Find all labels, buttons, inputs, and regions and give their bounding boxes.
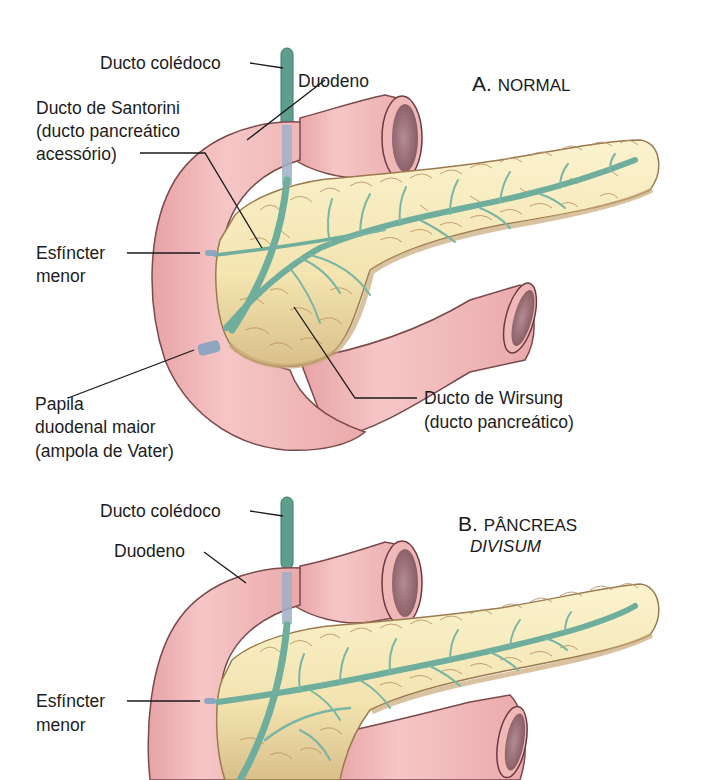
label-minor-sphincter-b-line2: menor xyxy=(36,714,86,736)
label-minor-sphincter-b-line1: Esfíncter xyxy=(36,690,105,712)
panel-b-title-text: PÂNCREAS xyxy=(484,516,578,535)
label-duodenum: Duodeno xyxy=(298,70,369,92)
label-minor-sphincter-line1: Esfíncter xyxy=(36,242,105,264)
label-major-papilla-line2: duodenal maior xyxy=(35,416,156,438)
label-minor-sphincter-line2: menor xyxy=(36,265,86,287)
common-bile-duct xyxy=(281,48,293,128)
label-santorini-line3: acessório) xyxy=(36,143,117,165)
label-wirsung-line2: (ducto pancreático) xyxy=(424,411,574,433)
panel-b-title-letter: B. xyxy=(458,512,478,535)
label-santorini-line1: Ducto de Santorini xyxy=(36,97,180,119)
panel-a-normal: Ducto colédoco Duodeno Ducto de Santorin… xyxy=(0,0,704,480)
minor-sphincter xyxy=(205,250,217,256)
common-bile-duct-b xyxy=(281,497,293,569)
label-major-papilla-line3: (ampola de Vater) xyxy=(35,440,174,462)
panel-a-title: A. NORMAL xyxy=(472,72,570,96)
minor-sphincter-b xyxy=(204,698,216,704)
panel-a-title-letter: A. xyxy=(472,72,492,95)
label-common-bile-duct: Ducto colédoco xyxy=(100,52,221,74)
panel-b-title: B. PÂNCREAS DIVISUM xyxy=(458,512,577,558)
panel-b-pancreas-divisum: Ducto colédoco Duodeno Esfíncter menor B… xyxy=(0,480,704,780)
label-santorini-line2: (ducto pancreático xyxy=(36,120,180,142)
pancreas-divisum-illustration xyxy=(0,480,704,780)
label-wirsung-line1: Ducto de Wirsung xyxy=(424,387,563,409)
panel-b-title-italic: DIVISUM xyxy=(470,536,577,558)
label-major-papilla-line1: Papila xyxy=(35,393,84,415)
label-duodenum-b: Duodeno xyxy=(114,540,185,562)
label-common-bile-duct-b: Ducto colédoco xyxy=(100,500,221,522)
panel-a-title-text: NORMAL xyxy=(498,76,571,95)
